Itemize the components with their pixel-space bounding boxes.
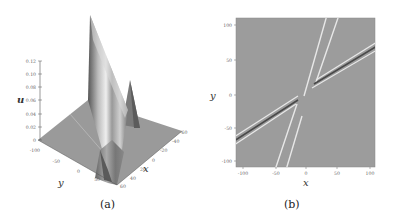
y-tick-label: 0 <box>77 169 80 174</box>
x-axis-label: x <box>143 163 149 174</box>
y-tick-label: 100 <box>223 23 232 28</box>
x-tick-label: 40 <box>130 176 136 181</box>
caption-a: (a) <box>100 198 115 211</box>
x-tick-label: 0 <box>152 158 155 163</box>
y-tick-label: -100 <box>30 148 40 153</box>
x-tick-label: -100 <box>238 171 248 176</box>
x-tick-label: -20 <box>160 148 167 153</box>
y-axis-label: y <box>209 90 216 101</box>
z-tick-label: 0.02 <box>26 125 36 130</box>
y-tick-label: 50 <box>226 58 232 63</box>
x-tick-label: 60 <box>120 184 126 189</box>
y-tick-label: 0 <box>229 93 232 98</box>
z-ticks: 0 0.02 0.04 0.06 0.08 0.10 0.12 <box>26 59 42 143</box>
surface-plot-3d: 0 0.02 0.04 0.06 0.08 0.10 0.12 u -100 -… <box>0 0 200 224</box>
x-tick-label: 50 <box>334 171 340 176</box>
z-tick-label: 0.06 <box>26 98 36 103</box>
z-tick-label: 0.12 <box>26 59 36 64</box>
z-axis-label: u <box>17 94 24 105</box>
panel-b: 100 50 0 -50 -100 y -100 -50 0 50 100 x … <box>200 0 393 224</box>
y-ticks: 100 50 0 -50 -100 <box>222 23 236 164</box>
panel-a: 0 0.02 0.04 0.06 0.08 0.10 0.12 u -100 -… <box>0 0 200 224</box>
y-tick-label: -50 <box>53 159 60 164</box>
y-axis-label: y <box>57 177 64 188</box>
y-tick-label: 50 <box>94 177 100 182</box>
x-ticks: -100 -50 0 50 100 <box>238 167 375 176</box>
x-axis-label: x <box>303 177 309 188</box>
x-tick-label: 100 <box>366 171 375 176</box>
y-tick-label: -100 <box>222 159 232 164</box>
z-tick-label: 0.08 <box>26 85 36 90</box>
z-tick-label: 0.10 <box>26 72 36 77</box>
density-plot: 100 50 0 -50 -100 y -100 -50 0 50 100 x <box>200 0 393 224</box>
x-tick-label: -60 <box>180 130 187 135</box>
caption-b: (b) <box>284 198 300 211</box>
z-tick-label: 0 <box>33 138 36 143</box>
x-tick-label: -40 <box>172 139 179 144</box>
y-tick-label: -50 <box>225 126 232 131</box>
z-tick-label: 0.04 <box>26 112 36 117</box>
x-tick-label: 0 <box>305 171 308 176</box>
x-tick-label: -50 <box>272 171 279 176</box>
